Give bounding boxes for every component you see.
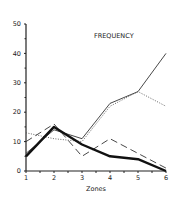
x-tick-label: 3 <box>80 174 84 182</box>
series-lines <box>26 53 166 171</box>
line-chart: 01020304050123456 FREQUENCY Zones <box>0 0 181 199</box>
x-tick-label: 6 <box>164 174 168 182</box>
x-tick-label: 1 <box>24 174 28 182</box>
axes: 01020304050123456 <box>13 20 168 182</box>
y-tick-label: 40 <box>13 50 21 58</box>
chart-title: FREQUENCY <box>94 32 134 40</box>
series-thick-solid <box>26 127 166 171</box>
x-axis-label: Zones <box>86 185 107 193</box>
series-thin-solid <box>26 53 166 153</box>
x-tick-label: 4 <box>108 174 112 182</box>
y-tick-label: 50 <box>13 20 21 28</box>
y-tick-label: 0 <box>17 167 21 175</box>
x-tick-label: 2 <box>52 174 56 182</box>
y-tick-label: 20 <box>13 108 21 116</box>
y-tick-label: 30 <box>13 79 21 87</box>
y-tick-label: 10 <box>13 138 21 146</box>
x-tick-label: 5 <box>136 174 140 182</box>
